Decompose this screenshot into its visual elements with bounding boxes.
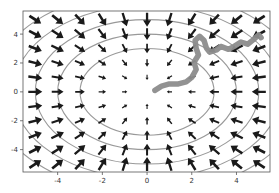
arrow-shape	[167, 59, 172, 66]
x-tick-label: 4	[234, 177, 239, 185]
arrow-shape	[75, 103, 85, 109]
vector-arrow	[29, 160, 42, 169]
arrow-shape	[51, 29, 63, 38]
vector-arrow	[145, 75, 148, 80]
trajectory-path	[155, 35, 261, 91]
vector-arrow	[98, 44, 107, 52]
arrow-shape	[231, 29, 243, 38]
arrow-shape	[231, 14, 243, 24]
arrow-shape	[209, 132, 220, 140]
vector-arrow	[230, 117, 243, 124]
arrow-shape	[28, 102, 42, 110]
quiver-chart: -4 -2 0 2 4 4 2 0 -2 -4	[0, 0, 279, 193]
arrow-shape	[98, 158, 107, 171]
vector-arrow	[209, 103, 219, 109]
arrow-shape	[98, 44, 107, 52]
vector-arrow	[74, 44, 85, 52]
arrow-shape	[98, 60, 106, 66]
arrow-shape	[99, 90, 106, 94]
arrow-shape	[98, 13, 107, 26]
arrow-shape	[145, 117, 149, 124]
x-tick: -2	[99, 172, 106, 185]
vector-arrow	[188, 158, 197, 171]
arrow-shape	[209, 75, 219, 81]
x-tick-label: -4	[54, 177, 62, 185]
vector-arrow	[75, 75, 85, 81]
arrow-shape	[98, 145, 107, 156]
arrow-shape	[231, 160, 243, 170]
arrow-shape	[122, 105, 127, 109]
vector-arrow	[51, 117, 64, 124]
vector-arrow	[122, 28, 129, 40]
arrow-shape	[28, 145, 41, 154]
arrow-shape	[166, 28, 173, 40]
y-tick-label: 0	[14, 88, 18, 96]
arrow-shape	[188, 90, 195, 94]
arrow-shape	[98, 28, 107, 39]
vector-arrow	[188, 90, 195, 94]
x-tick: 4	[234, 172, 239, 185]
vector-arrow	[121, 13, 129, 27]
vector-arrow	[188, 145, 197, 156]
vector-arrow	[28, 145, 41, 154]
x-tick-label: 2	[190, 177, 194, 185]
arrow-shape	[75, 60, 85, 66]
vector-arrow	[253, 145, 266, 154]
vector-arrow	[28, 30, 41, 39]
arrow-shape	[74, 44, 85, 52]
arrow-shape	[122, 28, 129, 40]
vector-arrows	[28, 13, 266, 171]
vector-arrow	[145, 59, 149, 66]
vector-arrow	[122, 144, 129, 156]
arrow-shape	[165, 13, 173, 27]
arrow-shape	[51, 160, 63, 170]
arrow-shape	[122, 75, 127, 79]
vector-arrow	[209, 75, 219, 81]
arrow-shape	[145, 59, 149, 66]
arrow-shape	[75, 75, 85, 81]
vector-arrow	[165, 157, 173, 171]
vector-arrow	[74, 29, 85, 39]
arrow-shape	[252, 116, 266, 124]
vector-arrow	[167, 90, 172, 93]
arrow-shape	[98, 131, 107, 139]
vector-arrow	[28, 102, 42, 110]
arrow-shape	[122, 90, 127, 93]
arrow-shape	[74, 132, 85, 140]
vector-arrow	[167, 75, 172, 79]
arrow-shape	[165, 157, 173, 171]
arrow-shape	[253, 160, 266, 169]
vector-arrow	[29, 15, 42, 24]
arrow-shape	[230, 60, 243, 67]
arrow-shape	[51, 14, 63, 24]
vector-arrow	[74, 132, 85, 140]
x-tick: -4	[54, 172, 62, 185]
vector-arrow	[98, 75, 106, 79]
vector-arrow	[231, 160, 243, 170]
y-tick: 2	[14, 59, 23, 67]
vector-arrow	[145, 117, 149, 124]
vector-arrow	[165, 13, 173, 27]
arrow-shape	[167, 105, 172, 109]
x-axis-ticks: -4 -2 0 2 4	[54, 172, 239, 185]
arrow-shape	[209, 29, 220, 39]
arrow-shape	[51, 60, 64, 67]
arrow-shape	[29, 15, 42, 24]
vector-arrow	[28, 116, 42, 124]
y-tick-label: 2	[14, 59, 18, 67]
vector-arrow	[231, 146, 243, 155]
vector-arrow	[209, 132, 220, 140]
y-tick: 4	[14, 31, 23, 39]
y-axis-ticks: 4 2 0 -2 -4	[11, 31, 23, 155]
arrow-shape	[98, 118, 106, 124]
arrow-shape	[28, 59, 42, 67]
y-tick: -2	[11, 117, 23, 125]
vector-arrow	[98, 131, 107, 139]
vector-arrow	[121, 157, 129, 171]
arrow-shape	[209, 103, 219, 109]
vector-arrow	[122, 90, 127, 93]
vector-arrow	[28, 59, 42, 67]
arrow-shape	[188, 158, 197, 171]
vector-arrow	[209, 29, 220, 39]
contour-circle	[35, 20, 259, 164]
